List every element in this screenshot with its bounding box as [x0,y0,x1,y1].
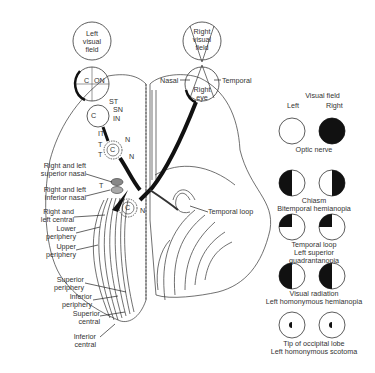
chiasm-left-field [279,170,292,196]
caption-line: Left homonymous scotoma [258,348,370,356]
caption-line: Bitemporal hemianopia [262,205,366,213]
caption-line: Left homonymous hemianopia [258,298,370,306]
legend-caption-occipital-tip: Tip of occipital lobe Left homonymous sc… [258,340,370,356]
legend-caption-visual-radiation: Visual radiation Left homonymous hemiano… [258,290,370,306]
optic-nerve-right-field [319,118,345,144]
chiasm-right-field [332,170,345,196]
legend-caption-chiasm: Chiasm Bitemporal hemianopia [262,197,366,213]
caption-line: quadrantanopia [262,257,366,265]
radiation-left-field [279,263,292,289]
legend-caption-optic-nerve: Optic nerve [262,146,366,154]
legend-field-circles [0,0,375,373]
legend-caption-temporal-loop: Temporal loop Left superior quadrantanop… [262,241,366,265]
temporal-loop-left-field [279,214,292,227]
caption-line: Optic nerve [262,146,366,154]
temporal-loop-right-field [319,214,332,227]
radiation-right-field [319,263,332,289]
optic-nerve-left-field [279,118,305,144]
